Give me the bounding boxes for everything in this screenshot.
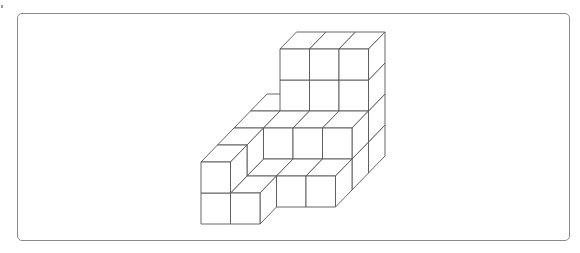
- cube-front-face: [323, 128, 353, 159]
- cube-front-face: [306, 176, 336, 207]
- cube-front-face: [201, 162, 231, 193]
- cube-front-face: [264, 128, 294, 159]
- cube-front-face: [280, 49, 310, 80]
- cube-front-face: [280, 80, 310, 111]
- cube-front-face: [201, 193, 231, 224]
- cube-front-face: [339, 80, 369, 111]
- cube-front-face: [310, 49, 340, 80]
- cube-front-face: [293, 128, 323, 159]
- cube-front-face: [339, 49, 369, 80]
- cube-front-face: [277, 176, 307, 207]
- cube-front-face: [231, 193, 261, 224]
- cube-front-face: [310, 80, 340, 111]
- cube-solid-drawing: [0, 0, 580, 253]
